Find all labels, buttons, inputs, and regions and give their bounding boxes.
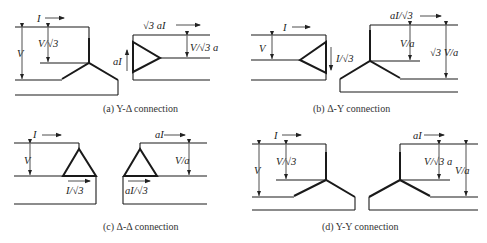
- panel-c-label-V: V: [24, 155, 32, 166]
- panel-c-label-secondary-voltage: V/a: [175, 155, 190, 166]
- panel-d-label-secondary-line-voltage: V/a: [455, 165, 470, 176]
- panel-d-caption: (d) Y-Y connection: [322, 221, 398, 233]
- panel-b-label-phase-current: I/√3: [335, 53, 353, 64]
- panel-b-label-phase-voltage: V/a: [400, 38, 415, 49]
- panel-a-label-secondary-current: √3 aI: [143, 20, 166, 31]
- panel-d-label-phase-voltage: V/√3: [276, 156, 296, 167]
- panel-b-caption: (b) Δ-Y connection: [313, 103, 390, 115]
- panel-a-y-delta: V V/√3 I √3 aI aI V/√3 a (a) Y-Δ connect…: [15, 13, 218, 115]
- panel-c-delta-delta: I V I/√3 aI V/a aI/√3 (c) Δ-Δ connection: [14, 129, 207, 233]
- panel-c-label-phase-current: I/√3: [65, 185, 83, 196]
- panel-b-label-V: V: [259, 43, 267, 54]
- panel-d-label-secondary-current: aI: [413, 130, 422, 141]
- panel-b-primary-delta: [251, 35, 326, 80]
- panel-d-y-y: I V V/√3 aI V/√3 a V/a (d) Y-Y connectio…: [252, 130, 478, 233]
- panel-c-label-current: I: [32, 129, 37, 140]
- panel-c-primary-delta: [14, 143, 96, 204]
- panel-c-caption: (c) Δ-Δ connection: [103, 221, 179, 233]
- panel-b-delta-y: I V I/√3 aI/√3 V/a √3 V/a (b) Δ-Y connec…: [251, 10, 458, 115]
- panel-a-label-secondary-voltage: V/√3 a: [190, 42, 218, 53]
- panel-d-label-secondary-phase-voltage: V/√3 a: [424, 156, 452, 167]
- transformer-connections-diagram: V V/√3 I √3 aI aI V/√3 a (a) Y-Δ connect…: [0, 0, 487, 243]
- panel-a-label-current: I: [36, 13, 41, 24]
- panel-d-label-V: V: [254, 165, 262, 176]
- panel-c-label-secondary-current: aI: [155, 129, 164, 140]
- panel-b-secondary-wye: [340, 25, 458, 92]
- panel-b-label-line-voltage: √3 V/a: [430, 47, 458, 58]
- panel-a-caption: (a) Y-Δ connection: [103, 103, 178, 115]
- panel-a-label-V: V: [17, 48, 25, 59]
- panel-b-label-current: I: [282, 22, 287, 33]
- panel-a-primary-wye: [15, 27, 118, 95]
- panel-a-label-phase-current: aI: [113, 56, 122, 67]
- panel-d-primary-wye: [252, 144, 355, 210]
- panel-c-label-secondary-phase-current: aI/√3: [125, 185, 148, 196]
- panel-b-label-secondary-current: aI/√3: [390, 10, 413, 21]
- panel-a-label-phase-voltage: V/√3: [38, 38, 58, 49]
- panel-d-label-current: I: [273, 130, 278, 141]
- panel-d-secondary-wye: [369, 144, 478, 210]
